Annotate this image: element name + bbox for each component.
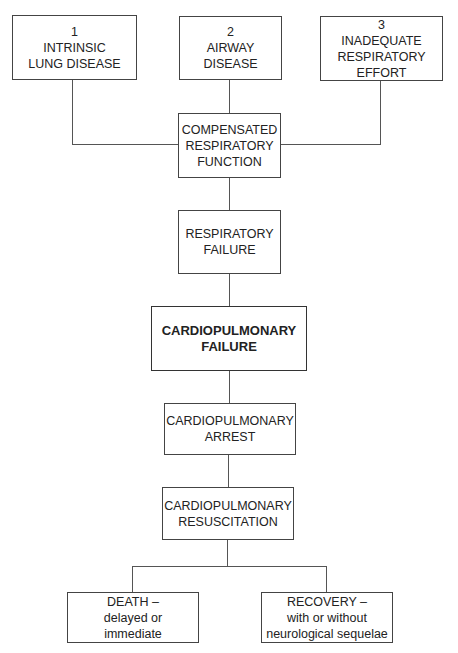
connector-compensated-to-resp-failure xyxy=(229,177,230,210)
connector-cause3-down xyxy=(380,80,381,145)
connector-to-recovery xyxy=(326,566,327,592)
node-cardiopulmonary-arrest: CARDIOPULMONARY ARREST xyxy=(164,403,296,455)
node-label: CARDIOPULMONARY xyxy=(166,413,294,429)
connector-cause2-to-compensated xyxy=(229,79,230,113)
connector-to-death xyxy=(132,566,133,592)
node-label: with or without xyxy=(287,610,367,626)
node-label: INTRINSIC xyxy=(43,40,106,56)
node-label: CARDIOPULMONARY xyxy=(164,498,292,514)
node-label: RESPIRATORY xyxy=(185,226,273,242)
node-inadequate-respiratory-effort: 3 INADEQUATE RESPIRATORY EFFORT xyxy=(320,16,443,81)
node-label: DISEASE xyxy=(203,56,257,72)
node-label: immediate xyxy=(104,626,162,642)
node-label: RESPIRATORY xyxy=(185,138,273,154)
node-compensated-respiratory-function: COMPENSATED RESPIRATORY FUNCTION xyxy=(178,113,281,178)
node-death: DEATH – delayed or immediate xyxy=(67,592,199,643)
node-label: EFFORT xyxy=(357,65,407,81)
node-label: INADEQUATE xyxy=(341,33,421,49)
connector-cause1-down xyxy=(72,79,73,145)
node-respiratory-failure: RESPIRATORY FAILURE xyxy=(178,210,281,274)
node-label: RECOVERY – xyxy=(287,594,367,610)
node-number: 1 xyxy=(71,24,78,40)
connector-cause3-to-compensated xyxy=(280,144,381,145)
node-number: 3 xyxy=(378,17,385,33)
node-label: delayed or xyxy=(104,610,162,626)
connector-cp-failure-to-arrest xyxy=(229,370,230,403)
node-label: DEATH – xyxy=(107,594,159,610)
node-label: CARDIOPULMONARY xyxy=(162,323,297,339)
connector-outcome-split xyxy=(132,566,327,567)
node-recovery: RECOVERY – with or without neurological … xyxy=(261,592,393,643)
node-label: RESPIRATORY xyxy=(337,49,425,65)
node-label: COMPENSATED xyxy=(182,122,278,138)
node-label: FUNCTION xyxy=(197,154,262,170)
connector-resp-failure-to-cp-failure xyxy=(229,273,230,306)
node-label: FAILURE xyxy=(203,242,255,258)
node-label: neurological sequelae xyxy=(266,626,388,642)
node-label: RESUSCITATION xyxy=(178,514,278,530)
node-airway-disease: 2 AIRWAY DISEASE xyxy=(179,16,282,80)
connector-resus-down xyxy=(227,539,228,567)
node-label: AIRWAY xyxy=(207,40,255,56)
node-cardiopulmonary-resuscitation: CARDIOPULMONARY RESUSCITATION xyxy=(162,487,294,540)
node-cardiopulmonary-failure: CARDIOPULMONARY FAILURE xyxy=(151,306,307,371)
node-label: ARREST xyxy=(205,429,256,445)
node-intrinsic-lung-disease: 1 INTRINSIC LUNG DISEASE xyxy=(12,15,137,80)
connector-cause1-to-compensated xyxy=(72,144,178,145)
node-label: FAILURE xyxy=(201,339,257,355)
cropped-header-text xyxy=(10,0,170,2)
node-label: LUNG DISEASE xyxy=(28,56,120,72)
node-number: 2 xyxy=(227,24,234,40)
connector-arrest-to-resus xyxy=(228,454,229,487)
